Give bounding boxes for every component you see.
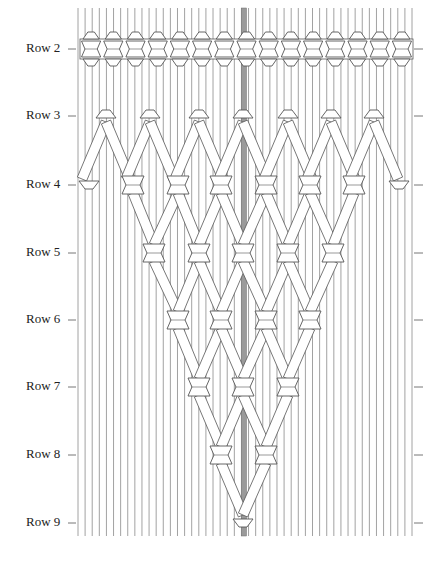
row3-cap: [233, 110, 253, 118]
row-label: Row 8: [26, 447, 60, 461]
square-knot: [277, 378, 299, 396]
row-label: Row 6: [26, 312, 60, 326]
square-knot: [143, 244, 165, 262]
row2-bottom-cap: [194, 59, 210, 66]
row2-bottom-cap: [216, 59, 232, 66]
row-label: Row 5: [26, 245, 60, 259]
row3-cap: [364, 110, 384, 118]
diagonal-band: [328, 191, 358, 247]
row2-top-cap: [305, 32, 321, 39]
square-knot: [255, 176, 277, 194]
row2-bottom-cap: [394, 59, 410, 66]
square-knot: [122, 176, 144, 194]
row-label: Row 4: [26, 177, 60, 191]
square-knot: [343, 176, 365, 194]
square-knot: [255, 311, 277, 329]
row2-bottom-cap: [127, 59, 143, 66]
row2-bottom-cap: [349, 59, 365, 66]
diagonal-band: [305, 259, 337, 314]
row2-top-cap: [238, 32, 254, 39]
square-knot: [299, 176, 321, 194]
square-knot: [188, 244, 210, 262]
square-knot: [188, 378, 210, 396]
row2-top-cap: [349, 32, 365, 39]
row2-top-cap: [283, 32, 299, 39]
square-knot: [277, 244, 299, 262]
row2-top-cap: [105, 32, 121, 39]
row-label: Row 9: [26, 515, 60, 529]
row-label: Row 3: [26, 108, 60, 122]
row2-bottom-cap: [105, 59, 121, 66]
row2-top-cap: [172, 32, 188, 39]
row-label: Row 7: [26, 379, 60, 393]
row2-bottom-cap: [283, 59, 299, 66]
row2-top-cap: [194, 32, 210, 39]
square-knot: [232, 244, 254, 262]
row4-end-cap: [79, 181, 99, 189]
row3-cap: [321, 110, 341, 118]
row2-bottom-cap: [372, 59, 388, 66]
row9-end-cap: [233, 519, 253, 527]
square-knot: [232, 378, 254, 396]
row2-top-cap: [216, 32, 232, 39]
square-knot: [255, 446, 277, 464]
row4-end-cap: [389, 181, 409, 189]
macrame-diagram: [0, 0, 442, 566]
row3-cap: [140, 110, 160, 118]
row3-cap: [278, 110, 298, 118]
row2-top-cap: [127, 32, 143, 39]
row2-bottom-cap: [305, 59, 321, 66]
row2-bottom-cap: [238, 59, 254, 66]
row2-bottom-cap: [172, 59, 188, 66]
row2-top-cap: [394, 32, 410, 39]
diagonal-band: [283, 326, 314, 381]
row-label: Row 2: [26, 41, 60, 55]
square-knot: [299, 311, 321, 329]
row2-top-cap: [372, 32, 388, 39]
